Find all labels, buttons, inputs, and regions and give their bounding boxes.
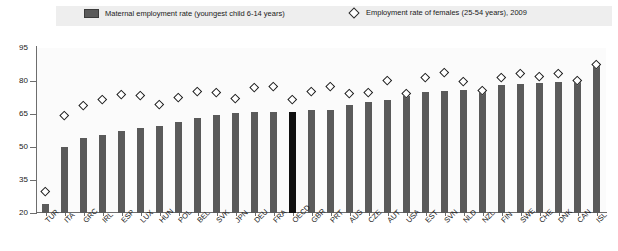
bar-svn[interactable] [441,91,449,213]
bar-gbr[interactable] [308,110,316,213]
y-axis-tick [30,147,36,148]
y-axis-tick-label: 20 [19,209,28,217]
diamond-marker-icon [348,7,359,18]
bar-hun[interactable] [156,126,164,213]
bar-lux[interactable] [137,128,145,213]
bar-pol[interactable] [175,122,183,213]
y-axis-tick-label: 50 [19,143,28,151]
bar-ita[interactable] [61,147,69,213]
bar-cze[interactable] [365,102,373,213]
bar-aus[interactable] [346,105,354,213]
bar-swatch-icon [84,9,99,18]
bar-deu[interactable] [251,112,259,213]
y-axis-tick-label: 35 [19,176,28,184]
bar-prt[interactable] [327,110,335,213]
y-axis-tick-label: 65 [19,110,28,118]
bar-grc[interactable] [80,138,88,213]
y-axis-tick-label: 95 [19,44,28,52]
bar-nzl[interactable] [479,89,487,213]
y-axis-tick [30,213,36,214]
legend-marker-label: Employment rate of females (25-54 years)… [366,9,527,17]
bar-irl[interactable] [99,135,107,213]
bar-swe[interactable] [517,84,525,213]
y-axis-tick-label: 80 [19,77,28,85]
legend-item-marker: Employment rate of females (25-54 years)… [350,9,527,17]
y-axis-tick [30,180,36,181]
y-axis-labels: 958065503520 [0,0,28,251]
bar-jpn[interactable] [232,113,240,213]
y-axis-line [36,46,37,214]
legend-item-bar: Maternal employment rate (youngest child… [84,9,285,18]
bar-isl[interactable] [593,63,601,213]
chart-root: Maternal employment rate (youngest child… [0,0,618,251]
bar-oecd[interactable] [289,112,297,213]
bar-est[interactable] [422,92,430,213]
bar-che[interactable] [536,83,544,213]
bar-dnk[interactable] [555,82,563,213]
bar-fra[interactable] [270,112,278,213]
bar-can[interactable] [574,80,582,213]
bar-svk[interactable] [213,115,221,213]
bar-esp[interactable] [118,131,126,214]
y-axis-tick [30,114,36,115]
legend-bar-label: Maternal employment rate (youngest child… [105,10,285,18]
bar-fin[interactable] [498,85,506,213]
y-axis-tick [30,81,36,82]
bar-bel[interactable] [194,118,202,213]
bar-usa[interactable] [403,96,411,213]
bar-aut[interactable] [384,100,392,213]
bar-nld[interactable] [460,90,468,213]
